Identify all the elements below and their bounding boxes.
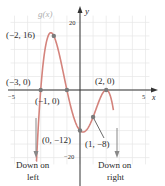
data-point [78,128,82,132]
left-end-label-line1: Down on [16,160,50,170]
left-end-label-line2: left [27,172,39,182]
point-label-m3: (−3, 0) [6,77,31,87]
point-label-2: (2, 0) [95,76,115,86]
left-down-arrow-icon [34,151,39,158]
data-point [104,88,108,92]
data-point [39,88,43,92]
pointer-line [93,117,104,138]
function-label: g(x) [38,9,53,19]
point-label-1: (1, −8) [85,139,110,149]
data-point [91,115,95,119]
y-axis-label: y [84,6,89,16]
right-end-label-line2: right [107,172,124,182]
right-down-arrow-icon [115,151,120,158]
x-axis-label: x [151,93,156,102]
point-label-m2: (−2, 16) [6,30,35,40]
data-point [65,88,69,92]
tick-y-20: 20 [69,19,76,26]
tick-y-neg20: −20 [64,153,74,160]
point-label-0: (0, −12) [42,135,71,145]
x-axis-arrow-icon [151,88,158,93]
point-label-m1: (−1, 0) [35,96,60,106]
tick-x-neg5: −5 [8,93,15,100]
right-end-label-line1: Down on [98,160,132,170]
y-axis-arrow-icon [78,6,83,13]
tick-x-5: 5 [142,93,145,100]
chart: g(x) y x −5 5 20 −20 (−2, 16) (−3, 0) (2… [0,0,165,186]
data-point [52,34,56,38]
